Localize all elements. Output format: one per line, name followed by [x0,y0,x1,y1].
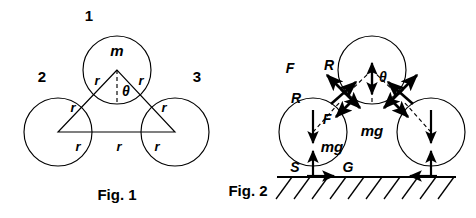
fig2-label-mg-top: mg [361,122,384,139]
fig2-caption: Fig. 2 [228,182,267,199]
fig2-label-F-outer: F [286,60,295,76]
fig2-label-R-inner: R [291,90,302,106]
fig2-label-mg-left: mg [321,138,344,155]
fig1-label-mass: m [110,42,123,59]
fig2-label-F-inner: F [323,111,332,127]
fig1-caption: Fig. 1 [97,186,136,203]
fig2-label-theta: θ [379,69,387,85]
fig2-arrow-R-outer-left [336,98,355,117]
diagram-canvas: 1 2 3 m θ r r r r r r r Fig. 1 [0,0,476,218]
fig1-label-r-base-left: r [75,139,81,154]
physics-diagram-page: 1 2 3 m θ r r r r r r r Fig. 1 [0,0,476,218]
fig2-label-S: S [290,159,300,175]
fig1-label-right-circle: 3 [193,68,201,85]
figure-1-group: 1 2 3 m θ r r r r r r r Fig. 1 [24,7,209,203]
fig1-label-r-base-right: r [154,139,160,154]
fig2-ground-hatching [276,177,454,199]
figure-2-group: θ F R R F mg mg S G Fig. 2 [228,36,465,199]
fig2-label-R-outer: R [324,57,335,73]
fig1-label-left-circle: 2 [38,68,46,85]
fig2-dashed-top-to-left-contact [346,70,372,95]
fig1-label-r-right-side: r [161,100,167,115]
fig1-label-top-circle: 1 [85,7,93,24]
fig1-label-r-upper-right: r [138,73,144,88]
fig1-label-theta: θ [122,83,130,99]
fig2-label-G: G [343,159,354,175]
fig1-label-r-upper-left: r [94,73,100,88]
fig2-arrow-R-outer-right [389,98,408,117]
fig1-label-r-base-mid: r [116,139,122,154]
